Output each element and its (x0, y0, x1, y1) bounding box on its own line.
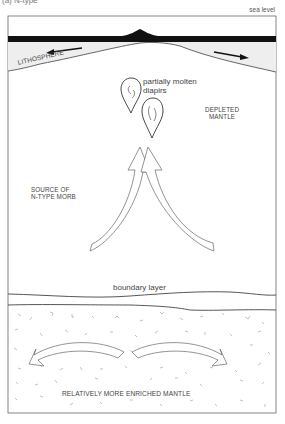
diapirs-label-line1: partially molten (143, 77, 197, 86)
diapirs-label-line2: diapirs (143, 86, 197, 95)
diapirs-label: partially molten diapirs (143, 77, 197, 95)
source-of-morb-label: SOURCE OF N-TYPE MORB (31, 186, 76, 200)
depleted-mantle-line1: DEPLETED (205, 106, 239, 113)
depleted-mantle-label: DEPLETED MANTLE (205, 106, 239, 120)
depleted-mantle-line2: MANTLE (205, 113, 239, 120)
mantle-diagram (0, 0, 285, 424)
source-line1: SOURCE OF (31, 186, 76, 193)
boundary-layer-label: boundary layer (113, 283, 166, 292)
enriched-mantle-label: RELATIVELY MORE ENRICHED MANTLE (62, 390, 190, 398)
sea-level-label: sea level (249, 6, 275, 13)
source-line2: N-TYPE MORB (31, 193, 76, 200)
